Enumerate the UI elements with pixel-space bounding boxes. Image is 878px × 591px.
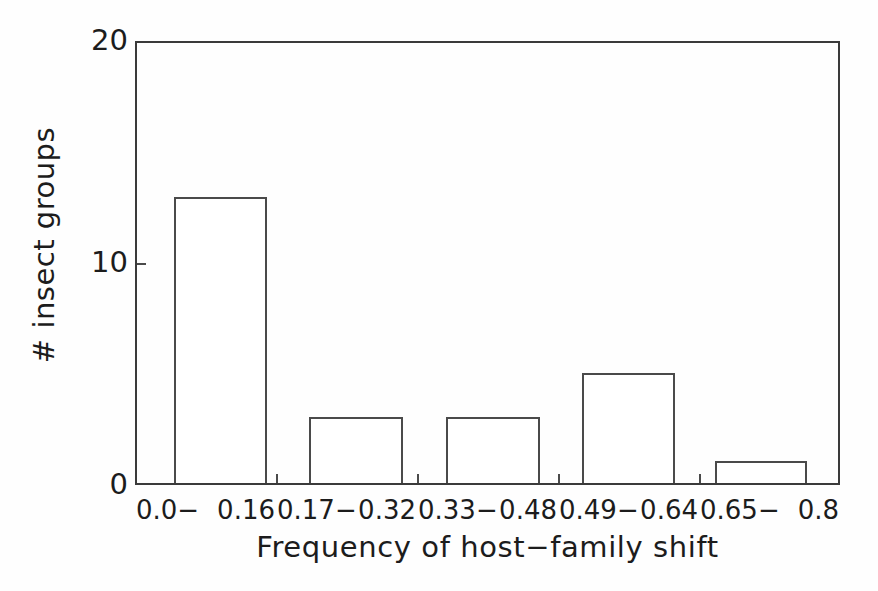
bar-4	[715, 461, 807, 483]
x-tick-label-group-4: 0.65− 0.8	[699, 492, 840, 528]
bar-2	[446, 417, 540, 483]
x-tick-label-2-low: 0.33−	[418, 497, 498, 523]
x-tick-label-3-low: 0.49−	[559, 497, 639, 523]
bar-chart-figure: # insect groups 20 10 0 0.0− 0.16 0.17− …	[0, 0, 878, 591]
x-tick-label-1-low: 0.17−	[277, 497, 357, 523]
x-tick-label-group-1: 0.17− 0.32	[276, 492, 417, 528]
x-axis-tick-labels: 0.0− 0.16 0.17− 0.32 0.33− 0.48 0.49− 0.…	[135, 492, 840, 528]
x-tick-label-0-high: 0.16	[217, 497, 275, 523]
x-tick-label-group-3: 0.49− 0.64	[558, 492, 699, 528]
x-tick-label-2-high: 0.48	[499, 497, 557, 523]
bar-0	[174, 197, 267, 483]
x-axis-title: Frequency of host−family shift	[135, 530, 840, 564]
x-tick-label-group-2: 0.33− 0.48	[417, 492, 558, 528]
bars-layer	[137, 43, 838, 483]
x-tick-label-3-high: 0.64	[640, 497, 698, 523]
y-tick-label-20: 20	[58, 26, 128, 55]
y-tick-label-10: 10	[58, 248, 128, 277]
y-tick-label-0: 0	[58, 470, 128, 499]
bar-1	[309, 417, 403, 483]
bar-3	[582, 373, 675, 483]
x-tick-label-0-low: 0.0−	[136, 497, 199, 523]
x-tick-label-4-high: 0.8	[798, 497, 839, 523]
y-axis-tick-labels: 20 10 0	[46, 0, 128, 591]
x-tick-label-1-high: 0.32	[358, 497, 416, 523]
x-tick-label-4-low: 0.65−	[700, 497, 780, 523]
x-tick-label-group-0: 0.0− 0.16	[135, 492, 276, 528]
plot-area	[135, 41, 840, 485]
